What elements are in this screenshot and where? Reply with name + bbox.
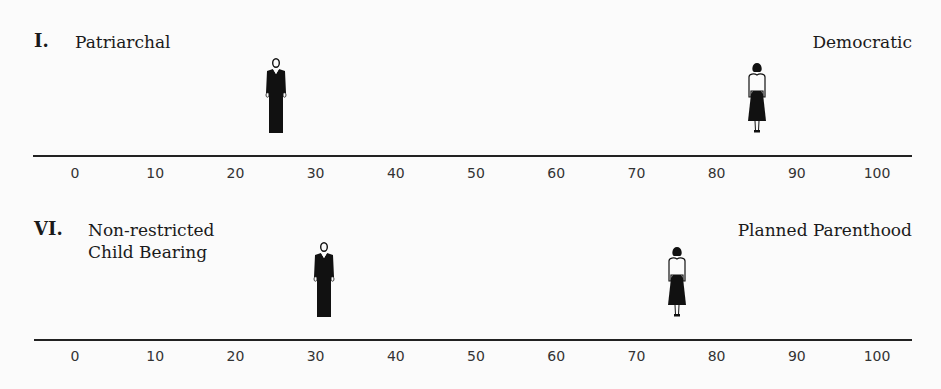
tick-label: 20: [226, 165, 244, 181]
tick-label: 60: [547, 165, 565, 181]
tick-label: 90: [788, 165, 806, 181]
man-figure-icon: [311, 242, 337, 322]
tick-label: 50: [467, 165, 485, 181]
panel-number: VI.: [34, 218, 63, 239]
scale-tick-labels: 0102030405060708090100: [0, 165, 941, 185]
woman-figure-icon: [665, 245, 689, 323]
right-pole-label: Democratic: [812, 31, 912, 53]
left-pole-label: Patriarchal: [75, 31, 171, 53]
tick-label: 0: [71, 348, 80, 364]
tick-label: 10: [146, 165, 164, 181]
left-pole-label: Non-restricted Child Bearing: [88, 219, 214, 263]
tick-label: 50: [467, 348, 485, 364]
scale-tick-labels: 0102030405060708090100: [0, 348, 941, 368]
tick-label: 0: [71, 165, 80, 181]
tick-label: 60: [547, 348, 565, 364]
tick-label: 30: [307, 348, 325, 364]
tick-label: 40: [387, 165, 405, 181]
man-figure-icon: [263, 58, 289, 138]
woman-figure-icon: [745, 61, 769, 139]
tick-label: 40: [387, 348, 405, 364]
tick-label: 20: [226, 348, 244, 364]
scale-axis-line: [34, 339, 912, 341]
scale-axis-line: [33, 155, 912, 157]
tick-label: 30: [307, 165, 325, 181]
scale-panel-childbearing-planned-parenthood: VI. Non-restricted Child Bearing Planned…: [0, 190, 941, 389]
tick-label: 90: [788, 348, 806, 364]
right-pole-label: Planned Parenthood: [738, 219, 912, 241]
tick-label: 70: [627, 348, 645, 364]
panel-number: I.: [34, 30, 49, 51]
tick-label: 10: [146, 348, 164, 364]
scale-panel-patriarchal-democratic: I. Patriarchal Democratic 01020304050607…: [0, 0, 941, 190]
tick-label: 100: [864, 165, 891, 181]
tick-label: 70: [627, 165, 645, 181]
tick-label: 100: [864, 348, 891, 364]
tick-label: 80: [708, 165, 726, 181]
tick-label: 80: [708, 348, 726, 364]
